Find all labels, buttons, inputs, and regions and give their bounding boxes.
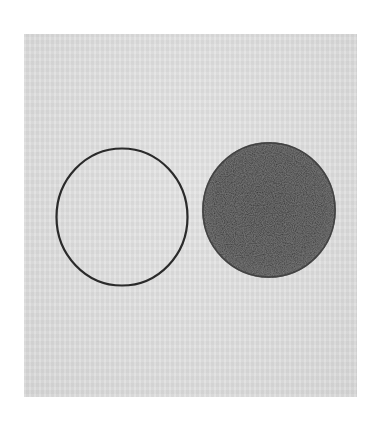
outline-circle: [57, 149, 188, 286]
artwork-canvas: [0, 0, 380, 440]
